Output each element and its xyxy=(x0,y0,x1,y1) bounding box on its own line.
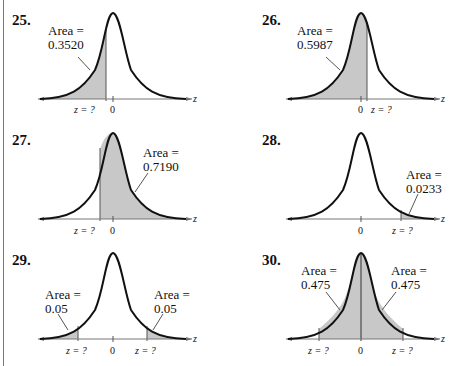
axis-label: z xyxy=(441,213,445,224)
z-label: z = ? xyxy=(74,225,95,236)
exercise-number: 26. xyxy=(262,12,281,29)
exercise-29: 29. Area =0.05 Area =0.05 z = ? 0 z = ? … xyxy=(0,240,228,360)
left-area-label: Area =0.475 xyxy=(301,264,337,292)
right-area-label: Area =0.05 xyxy=(154,288,190,316)
z-label: z = ? xyxy=(74,104,95,115)
exercise-28: 28. Area =0.0233 0 z = ? z xyxy=(228,120,456,240)
left-area-label: Area =0.05 xyxy=(45,288,81,316)
zero-tick: 0 xyxy=(358,345,363,356)
exercise-number: 28. xyxy=(262,132,281,149)
right-area-label: Area =0.475 xyxy=(391,264,427,292)
exercise-27: 27. Area =0.7190 z = ? 0 z xyxy=(0,120,228,240)
z-left-label: z = ? xyxy=(308,345,329,356)
exercise-number: 25. xyxy=(12,12,31,29)
area-label: Area =0.5987 xyxy=(297,24,333,52)
z-right-label: z = ? xyxy=(135,345,156,356)
axis-label: z xyxy=(193,333,197,344)
zero-tick: 0 xyxy=(358,225,363,236)
exercise-number: 30. xyxy=(262,252,281,269)
z-label: z = ? xyxy=(392,225,413,236)
exercise-26: 26. Area =0.5987 0 z = ? z xyxy=(228,0,456,120)
axis-label: z xyxy=(441,333,445,344)
exercise-25: 25. Area =0.3520 z = ? 0 z xyxy=(0,0,228,120)
area-label: Area =0.0233 xyxy=(406,168,442,196)
area-label: Area =0.3520 xyxy=(48,24,84,52)
z-right-label: z = ? xyxy=(392,345,413,356)
area-label: Area =0.7190 xyxy=(143,146,179,174)
axis-label: z xyxy=(193,93,197,104)
zero-tick: 0 xyxy=(358,104,363,115)
zero-tick: 0 xyxy=(110,225,115,236)
exercise-number: 27. xyxy=(12,132,31,149)
z-left-label: z = ? xyxy=(66,345,87,356)
axis-label: z xyxy=(441,93,445,104)
exercise-number: 29. xyxy=(12,252,31,269)
exercise-30: 30. Area =0.475 Area =0.475 z = ? 0 z = … xyxy=(228,240,456,360)
axis-label: z xyxy=(193,213,197,224)
zero-tick: 0 xyxy=(110,345,115,356)
zero-tick: 0 xyxy=(110,104,115,115)
z-label: z = ? xyxy=(371,104,392,115)
